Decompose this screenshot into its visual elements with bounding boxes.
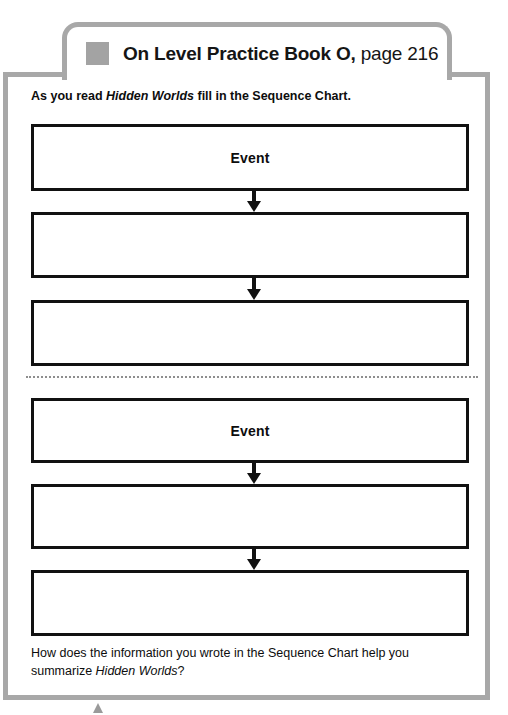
arrow-head <box>247 559 261 570</box>
up-caret-icon <box>93 703 103 713</box>
closing-question-post: ? <box>178 664 185 678</box>
sequence-box-6[interactable] <box>31 570 469 636</box>
arrow-stem <box>252 463 256 473</box>
header-title-bold: On Level Practice Book O, <box>123 43 356 64</box>
instruction-book-title: Hidden Worlds <box>106 89 194 103</box>
down-arrow-icon-1 <box>247 191 261 212</box>
closing-question-pre: How does the information you wrote in th… <box>31 646 409 678</box>
instruction-post: fill in the Sequence Chart. <box>194 89 351 103</box>
sequence-box-4-label: Event <box>230 423 269 439</box>
down-arrow-icon-3 <box>247 463 261 484</box>
header-tab: On Level Practice Book O, page 216 <box>62 22 452 80</box>
down-arrow-icon-4 <box>247 549 261 570</box>
arrow-stem <box>252 278 256 289</box>
header-title: On Level Practice Book O, page 216 <box>123 43 438 65</box>
sequence-box-2[interactable] <box>31 212 469 278</box>
arrow-head <box>247 473 261 484</box>
header-title-page: page 216 <box>356 43 439 64</box>
arrow-head <box>247 289 261 300</box>
arrow-stem <box>252 549 256 559</box>
sequence-box-1[interactable]: Event <box>31 124 469 191</box>
dotted-cut-line <box>26 376 478 378</box>
sequence-box-5[interactable] <box>31 484 469 549</box>
instruction-pre: As you read <box>31 89 106 103</box>
instruction-text: As you read Hidden Worlds fill in the Se… <box>31 88 461 105</box>
closing-question-book-title: Hidden Worlds <box>96 664 178 678</box>
sequence-box-4[interactable]: Event <box>31 398 469 463</box>
sequence-box-3[interactable] <box>31 300 469 366</box>
arrow-head <box>247 201 261 212</box>
gray-square-icon <box>86 42 109 65</box>
down-arrow-icon-2 <box>247 278 261 300</box>
arrow-stem <box>252 191 256 201</box>
closing-question-text: How does the information you wrote in th… <box>31 644 451 680</box>
sequence-box-1-label: Event <box>230 150 269 166</box>
